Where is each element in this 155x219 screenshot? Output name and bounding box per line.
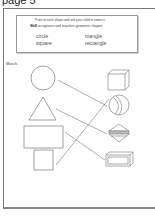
shape-circle[interactable] <box>31 66 55 90</box>
object-pyramid[interactable] <box>109 124 129 142</box>
connection-lines <box>56 80 109 165</box>
object-ball[interactable] <box>109 95 129 115</box>
object-box[interactable] <box>106 152 133 166</box>
shape-triangle[interactable] <box>29 97 56 120</box>
object-cube[interactable] <box>108 70 129 90</box>
line-triangle-to-pyramid <box>56 109 107 134</box>
shape-square[interactable] <box>34 150 53 170</box>
line-circle-to-ball <box>58 80 107 106</box>
shape-rectangle[interactable] <box>24 126 63 148</box>
matching-artwork <box>1 1 155 219</box>
worksheet: Point to each shape and ask your child t… <box>3 8 155 209</box>
line-square-to-cube <box>56 99 109 165</box>
